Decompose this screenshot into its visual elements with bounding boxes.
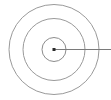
diagram-canvas: [0, 0, 111, 100]
concentric-circles-diagram: [0, 0, 111, 100]
center-point: [53, 48, 56, 51]
